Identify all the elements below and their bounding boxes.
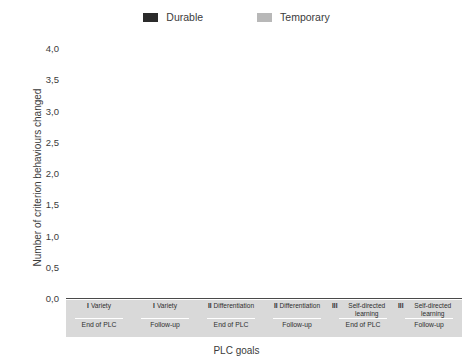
y-tick-label: 3,5 (46, 74, 59, 85)
bar-group (330, 48, 396, 298)
category-separator (339, 318, 387, 319)
category-separator (207, 318, 255, 319)
y-axis-title: Number of criterion behaviours changed (32, 78, 43, 278)
legend-label-durable: Durable (166, 11, 203, 23)
category-phase: End of PLC (214, 321, 249, 329)
y-tick-label: 1,5 (46, 199, 59, 210)
bar-group (66, 48, 132, 298)
category-phase: Follow-up (414, 321, 443, 329)
category-numeral: II (208, 302, 212, 310)
category-label-band: IVarietyEnd of PLCIVarietyFollow-upIIDif… (66, 300, 462, 337)
category-phase: End of PLC (346, 321, 381, 329)
y-tick-label: 3,0 (46, 105, 59, 116)
legend-swatch-temporary (257, 13, 272, 22)
category-separator (273, 318, 321, 319)
category-numeral: III (332, 302, 338, 310)
y-tick-label: 4,0 (46, 43, 59, 54)
category-goal: Differentiation (214, 302, 255, 310)
category-label: IIDifferentiationEnd of PLC (198, 300, 264, 337)
category-phase: Follow-up (150, 321, 179, 329)
y-tick-label: 2,5 (46, 136, 59, 147)
category-label: IVarietyFollow-up (132, 300, 198, 337)
category-numeral: I (87, 302, 89, 310)
bar-group (396, 48, 462, 298)
plot-area: 4,0 3,5 3,0 2,5 2,0 1,5 1,0 0,5 0,0 (66, 48, 462, 298)
category-goal: Variety (91, 302, 111, 310)
category-separator (141, 318, 189, 319)
category-numeral: III (398, 302, 404, 310)
x-axis-line (66, 298, 462, 300)
category-goal: Variety (157, 302, 177, 310)
category-label: IVarietyEnd of PLC (66, 300, 132, 337)
category-phase: Follow-up (282, 321, 311, 329)
legend-item-durable: Durable (143, 11, 203, 23)
y-tick-label: 2,0 (46, 168, 59, 179)
chart-legend: Durable Temporary (0, 11, 473, 23)
y-tick-label: 1,0 (46, 230, 59, 241)
bars-layer (66, 48, 462, 298)
category-goal: Differentiation (280, 302, 321, 310)
y-tick-label: 0,5 (46, 261, 59, 272)
category-separator (75, 318, 123, 319)
category-goal: Self-directed learning (340, 302, 395, 317)
category-label: IIISelf-directed learningEnd of PLC (330, 300, 396, 337)
bar-group (132, 48, 198, 298)
category-goal: Self-directed learning (406, 302, 461, 317)
category-label: IIISelf-directed learningFollow-up (396, 300, 462, 337)
bar-group (264, 48, 330, 298)
legend-label-temporary: Temporary (280, 11, 330, 23)
x-axis-title: PLC goals (0, 345, 473, 356)
category-label: IIDifferentiationFollow-up (264, 300, 330, 337)
stacked-bar-chart: Durable Temporary Number of criterion be… (0, 0, 473, 363)
bar-group (198, 48, 264, 298)
legend-item-temporary: Temporary (257, 11, 330, 23)
category-phase: End of PLC (82, 321, 117, 329)
category-numeral: II (274, 302, 278, 310)
category-separator (405, 318, 453, 319)
legend-swatch-durable (143, 13, 158, 22)
category-numeral: I (153, 302, 155, 310)
y-tick-label: 0,0 (46, 293, 59, 304)
